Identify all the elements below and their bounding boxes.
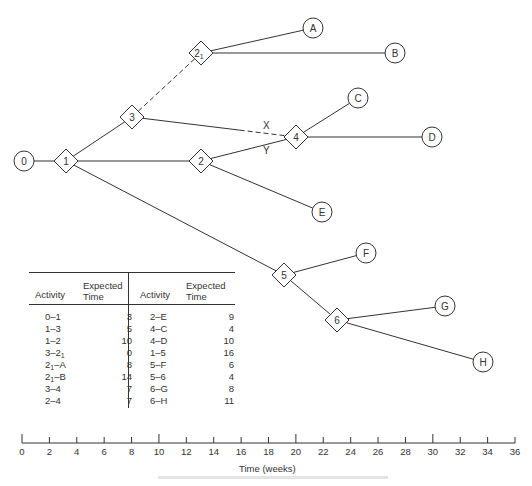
tick-label: 18 [259, 446, 279, 457]
right-time-column: 94101664811 [199, 311, 234, 407]
tick-label: 6 [94, 446, 114, 457]
edge-6-G [348, 307, 435, 318]
node-D: D [422, 127, 442, 147]
header-activity-right: Activity [140, 289, 170, 300]
node-label: B [392, 48, 399, 59]
node-label: 4 [293, 132, 299, 143]
figure-caption-faded [158, 476, 388, 479]
edge-3-4 [143, 118, 240, 130]
node-label: H [479, 357, 486, 368]
tick-label: 10 [149, 446, 169, 457]
tick-label: 0 [12, 446, 32, 457]
expected-time-cell: 7 [89, 395, 132, 407]
node-label: 6 [334, 315, 340, 326]
header-expected-line2: Time [83, 291, 123, 302]
activity-cell: 6–H [150, 395, 168, 407]
node-0: 0 [14, 151, 34, 171]
node-C: C [348, 88, 368, 108]
activity-cell: 1–5 [150, 347, 168, 359]
node-H: H [473, 352, 493, 372]
tick-label: 20 [286, 446, 306, 457]
tick-label: 14 [204, 446, 224, 457]
header-expected-line1: Expected [83, 280, 123, 291]
expected-time-cell: 16 [199, 347, 234, 359]
header-expected-time-right: Expected Time [186, 280, 226, 302]
node-5: 5 [272, 263, 296, 287]
node-4: 4 [284, 125, 308, 149]
expected-time-cell: 7 [89, 383, 132, 395]
tick-label: 2 [39, 446, 59, 457]
expected-time-cell: 0 [89, 347, 132, 359]
edge-label-x: X [263, 120, 270, 131]
node-label: 5 [281, 270, 287, 281]
tick-label: 16 [231, 446, 251, 457]
node-2: 2 [189, 149, 213, 173]
edge-1-3 [73, 122, 125, 156]
edge-4-C [303, 103, 349, 132]
tick-label: 28 [395, 446, 415, 457]
tick-label: 24 [341, 446, 361, 457]
expected-time-cell: 3 [89, 311, 132, 323]
activity-cell: 2–E [150, 311, 168, 323]
activity-cell: 3–21 [45, 347, 66, 359]
activity-cell: 3–4 [45, 383, 66, 395]
node-B: B [385, 43, 405, 63]
right-activity-column: 2–E4–C4–D1–55–F5–66–G6–H [150, 311, 168, 407]
node-6: 6 [325, 308, 349, 332]
tick-label: 8 [122, 446, 142, 457]
activity-cell: 21–A [45, 359, 66, 371]
tick-label: 30 [423, 446, 443, 457]
activity-cell: 2–4 [45, 395, 66, 407]
activity-cell: 4–C [150, 323, 168, 335]
edge-5-F [293, 256, 356, 273]
activity-cell: 5–F [150, 359, 168, 371]
time-axis-title: Time (weeks) [239, 463, 296, 474]
tick-label: 34 [478, 446, 498, 457]
left-activity-column: 0–11–31–23–2121–A21–B3–42–4 [45, 311, 66, 407]
left-time-column: 3510081477 [89, 311, 132, 407]
node-A: A [303, 18, 323, 38]
node-G: G [435, 296, 455, 316]
activity-cell: 5–6 [150, 371, 168, 383]
node-label: C [354, 93, 361, 104]
table-header-rule [29, 304, 235, 305]
tick-label: 22 [313, 446, 333, 457]
node-E: E [312, 202, 332, 222]
node-label: 2 [198, 156, 204, 167]
tick-label: 32 [450, 446, 470, 457]
activity-cell: 6–G [150, 383, 168, 395]
activity-cell: 21–B [45, 371, 66, 383]
expected-time-cell: 11 [199, 395, 234, 407]
node-label: 3 [129, 112, 135, 123]
tick-label: 26 [368, 446, 388, 457]
time-axis [22, 434, 515, 443]
tick-label: 36 [505, 446, 525, 457]
expected-time-cell: 4 [199, 323, 234, 335]
expected-time-cell: 10 [199, 335, 234, 347]
expected-time-cell: 9 [199, 311, 234, 323]
edge-labels: X Y [263, 120, 270, 156]
edge-1-5 [74, 165, 276, 271]
edge-5-6 [290, 281, 330, 315]
edge-6-H [346, 323, 473, 360]
activity-cell: 1–3 [45, 323, 66, 335]
edge-label-y: Y [263, 145, 270, 156]
node-label: F [363, 248, 369, 259]
edge-21-A [211, 30, 303, 51]
header-expected-time-left: Expected Time [83, 280, 123, 302]
tick-label: 4 [67, 446, 87, 457]
expected-time-cell: 8 [89, 359, 132, 371]
expected-time-cell: 4 [199, 371, 234, 383]
header-expected-line1: Expected [186, 280, 226, 291]
network-diagram: 013212456ABCDEFGH X Y [0, 0, 532, 486]
table-top-rule [29, 272, 235, 273]
expected-time-cell: 10 [89, 335, 132, 347]
node-label: D [428, 132, 435, 143]
activity-cell: 4–D [150, 335, 168, 347]
expected-time-cell: 14 [89, 371, 132, 383]
edge-2-E [209, 165, 312, 209]
node-1: 1 [54, 149, 78, 173]
node-label: A [310, 23, 317, 34]
activity-time-table: Activity Expected Time Activity Expected… [29, 272, 235, 412]
activity-cell: 1–2 [45, 335, 66, 347]
